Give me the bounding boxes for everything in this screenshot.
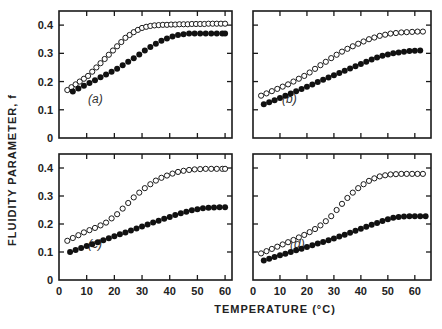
data-point-filled <box>81 83 87 89</box>
data-point-open <box>222 21 227 26</box>
data-point-open <box>388 31 393 36</box>
data-point-open <box>120 206 125 211</box>
data-point-open <box>110 48 115 53</box>
data-point-filled <box>208 31 214 37</box>
data-point-filled <box>92 77 98 83</box>
data-point-filled <box>131 55 137 61</box>
data-point-open <box>269 246 274 251</box>
data-point-filled <box>390 50 396 56</box>
data-point-filled <box>98 74 104 80</box>
data-point-filled <box>167 214 173 220</box>
x-tick-label: 10 <box>274 285 286 297</box>
x-tick-label: 50 <box>382 285 394 297</box>
data-point-open <box>280 242 285 247</box>
data-point-filled <box>299 246 305 252</box>
data-point-filled <box>134 225 140 231</box>
data-point-open <box>318 223 323 228</box>
data-point-open <box>115 44 120 49</box>
data-point-filled <box>150 220 156 226</box>
data-point-open <box>307 230 312 235</box>
data-point-filled <box>164 35 170 41</box>
data-point-open <box>98 61 103 66</box>
data-point-filled <box>417 213 423 219</box>
data-point-open <box>366 178 371 183</box>
data-point-open <box>361 39 366 44</box>
data-point-filled <box>266 99 272 105</box>
data-point-open <box>318 63 323 68</box>
data-point-filled <box>347 66 353 72</box>
data-point-filled <box>282 93 288 99</box>
data-point-filled <box>347 230 353 236</box>
data-point-open <box>366 37 371 42</box>
data-point-filled <box>401 213 407 219</box>
data-point-filled <box>189 207 195 213</box>
data-point-filled <box>117 231 123 237</box>
data-point-filled <box>106 235 112 241</box>
data-point-filled <box>120 62 126 68</box>
data-point-filled <box>331 236 337 242</box>
data-point-open <box>291 237 296 242</box>
data-point-filled <box>128 227 134 233</box>
data-point-open <box>334 52 339 57</box>
data-point-open <box>393 172 398 177</box>
data-point-open <box>119 39 124 44</box>
data-point-filled <box>175 32 181 38</box>
data-point-filled <box>304 84 310 90</box>
data-point-open <box>296 76 301 81</box>
data-point-filled <box>406 213 412 219</box>
data-point-open <box>312 66 317 71</box>
data-point-filled <box>412 48 418 54</box>
data-point-filled <box>320 239 326 245</box>
x-tick-label: 0 <box>56 285 62 297</box>
x-tick-label: 20 <box>108 285 120 297</box>
data-point-open <box>280 84 285 89</box>
data-point-open <box>65 238 70 243</box>
data-point-open <box>106 52 111 57</box>
data-point-open <box>164 173 169 178</box>
data-point-filled <box>326 75 332 81</box>
data-point-filled <box>417 48 423 54</box>
data-point-open <box>115 212 120 217</box>
data-point-filled <box>277 95 283 101</box>
data-point-filled <box>261 101 267 107</box>
data-point-open <box>269 89 274 94</box>
data-point-filled <box>109 69 115 75</box>
y-tick-label: 0.3 <box>38 47 53 59</box>
data-point-filled <box>309 81 315 87</box>
data-point-open <box>415 29 420 34</box>
data-point-filled <box>122 229 128 235</box>
data-point-filled <box>288 90 294 96</box>
data-point-open <box>203 166 208 171</box>
data-point-filled <box>342 68 348 74</box>
data-point-filled <box>304 244 310 250</box>
data-point-filled <box>192 31 198 37</box>
data-point-filled <box>156 218 162 224</box>
data-point-open <box>404 171 409 176</box>
data-point-filled <box>396 49 402 55</box>
data-point-open <box>76 233 81 238</box>
data-point-filled <box>326 237 332 243</box>
x-tick-label: 0 <box>250 285 256 297</box>
data-point-filled <box>95 239 101 245</box>
data-point-open <box>339 201 344 206</box>
data-point-open <box>222 166 227 171</box>
data-point-filled <box>142 48 148 54</box>
data-point-open <box>159 175 164 180</box>
y-tick-label: 0.4 <box>38 162 54 174</box>
data-point-open <box>329 56 334 61</box>
x-tick-label: 60 <box>409 285 421 297</box>
data-point-filled <box>181 31 187 37</box>
data-point-open <box>383 32 388 37</box>
data-point-open <box>258 251 263 256</box>
data-point-filled <box>331 72 337 78</box>
data-point-open <box>285 82 290 87</box>
series-open-circles <box>258 171 425 256</box>
data-point-filled <box>282 251 288 257</box>
panel-d: 0102030405060(d) <box>250 154 431 297</box>
series-open-circles <box>65 166 228 243</box>
data-point-filled <box>217 204 223 210</box>
data-point-open <box>339 49 344 54</box>
data-point-filled <box>200 205 206 211</box>
data-point-open <box>148 182 153 187</box>
data-point-open <box>383 173 388 178</box>
